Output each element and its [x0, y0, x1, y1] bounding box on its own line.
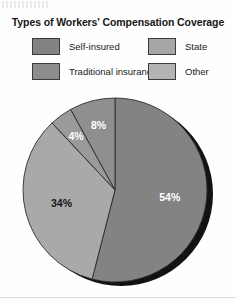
legend-item-state[interactable]: State	[148, 38, 207, 55]
pie-slice-label-self-insured: 54%	[159, 191, 181, 203]
legend-swatch-self-insured	[32, 38, 60, 55]
legend-label-traditional-insurance: Traditional insurance	[69, 66, 157, 78]
page-bottom-rule	[0, 297, 236, 298]
legend-swatch-state	[148, 38, 176, 55]
legend-swatch-other	[148, 63, 176, 80]
pie-slice-traditional-insurance[interactable]	[23, 123, 115, 279]
pie-slice-label-other: 8%	[91, 119, 107, 131]
pie-slice-state[interactable]	[52, 109, 115, 190]
chart-page: Types of Workers' Compensation Coverage …	[0, 0, 236, 303]
pie-slice-self-insured[interactable]	[92, 98, 207, 282]
legend-item-other[interactable]: Other	[148, 63, 209, 80]
pie-slice-other[interactable]	[71, 98, 115, 190]
legend-label-state: State	[185, 41, 207, 53]
legend-label-self-insured: Self-insured	[69, 41, 120, 53]
legend-item-traditional-insurance[interactable]: Traditional insurance	[32, 63, 157, 80]
page-title: Types of Workers' Compensation Coverage	[0, 16, 236, 29]
legend-swatch-traditional-insurance	[32, 63, 60, 80]
pie-label-group: 54%34%4%8%	[51, 119, 181, 209]
legend-item-self-insured[interactable]: Self-insured	[32, 38, 120, 55]
chart-legend: Self-insured State Traditional insurance…	[0, 36, 236, 84]
legend-label-other: Other	[185, 66, 209, 78]
pie-slice-group	[23, 98, 207, 282]
pie-slice-label-traditional-insurance: 34%	[51, 197, 73, 209]
scan-artifact	[2, 1, 48, 8]
pie-slice-label-state: 4%	[69, 130, 85, 142]
pie-drop-shadow	[29, 102, 213, 286]
